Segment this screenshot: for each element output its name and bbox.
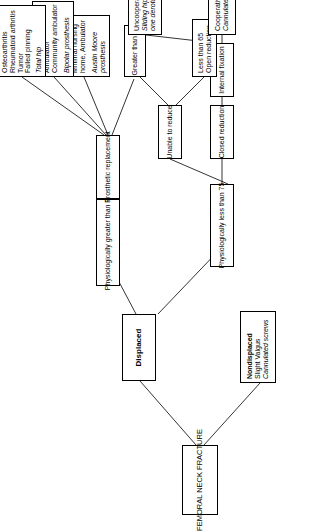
- node-line: Unable to reduce: [166, 105, 174, 158]
- node-line: Cannulated screws: [262, 319, 270, 379]
- node-nondisplaced: Nondisplaced Slight Valgus Cannulated sc…: [240, 311, 276, 383]
- link-lt75-unable: [170, 159, 228, 184]
- node-line: Slight Valgus: [254, 339, 262, 379]
- node-line: home, Ambulator: [79, 20, 87, 73]
- node-line: Total hip: [35, 47, 43, 73]
- node-line: Prosthetic replacement: [104, 131, 112, 203]
- node-line: Tumor: [17, 53, 25, 73]
- link-prosthetic-nursing: [54, 77, 106, 135]
- link-unable-gt65: [140, 77, 168, 105]
- node-line: Sliding hip screw with: [141, 0, 149, 31]
- link-root-displaced: [140, 381, 196, 445]
- link-prosthetic-minimal: [84, 77, 108, 135]
- node-line: Nondisplaced: [246, 333, 254, 379]
- node-line: Uncooperative patient: [133, 0, 141, 31]
- node-line: Community ambulator: [51, 5, 59, 73]
- node-physiologically-greater-than-75: Physiologically greater than 75: [96, 199, 120, 286]
- node-line: Cooperative patient: [214, 0, 222, 31]
- node-uncooperative-patient: Uncooperative patient Sliding hip screw …: [128, 0, 162, 35]
- link-gt65-prosthetic: [112, 79, 134, 135]
- node-total-hip: Osteoarthritis Rheumatoid arthritis Tumo…: [0, 5, 46, 77]
- node-line: Osteoarthritis: [1, 31, 9, 73]
- node-displaced: Displaced: [122, 314, 156, 381]
- link-prosthetic-totalhip: [22, 77, 104, 135]
- node-line: Less than 65: [197, 33, 205, 73]
- node-line: Austin Moore: [91, 32, 99, 73]
- node-line: Physiologically greater than 75: [104, 195, 112, 290]
- node-physiologically-less-than-75: Physiologically less than 75: [210, 184, 234, 267]
- node-line: Physiologically less than 75: [218, 183, 226, 269]
- node-prosthetic-replacement: Prosthetic replacement: [96, 135, 120, 199]
- node-line: Internal fixation: [218, 46, 226, 93]
- node-line: Rheumatoid arthritis: [9, 10, 17, 73]
- link-unable-lt65: [176, 77, 204, 105]
- node-line: one derotation screw: [149, 0, 157, 31]
- node-cooperative-patient: Cooperative patient Cannulated screws: [208, 0, 236, 35]
- node-closed-reduction: Closed reduction: [210, 105, 234, 159]
- node-unable-to-reduce: Unable to reduce: [158, 105, 182, 159]
- node-line: prosthesis: [99, 41, 107, 73]
- link-root-nondisplaced: [204, 383, 260, 445]
- node-minimal-nursing-home: Minimal nursing home, Ambulator Austin M…: [68, 15, 110, 77]
- node-line: Displaced: [135, 329, 144, 367]
- node-line: Failed pinning: [24, 29, 32, 73]
- node-line: Bipolar prosthesis: [63, 17, 71, 73]
- node-line: FEMORAL NECK FRACTURE: [196, 429, 204, 531]
- node-line: Closed reduction: [218, 106, 226, 159]
- node-femoral-neck-fracture: FEMORAL NECK FRACTURE: [182, 445, 218, 515]
- node-line: Cannulated screws: [222, 0, 230, 31]
